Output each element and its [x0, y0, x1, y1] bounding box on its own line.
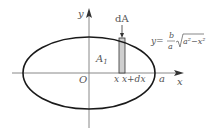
strip-pointer-arrow-icon: [120, 33, 124, 38]
equation-frac-den: a: [168, 42, 173, 51]
equation-frac-num: b: [169, 31, 174, 40]
equation-lhs: y=: [150, 36, 164, 46]
area-label: A1: [95, 53, 108, 66]
curve-equation: y= b a a²−x²: [150, 31, 205, 51]
origin-label: O: [79, 74, 87, 85]
x-right-label: x+dx: [122, 74, 145, 84]
x-left-label: x: [114, 74, 119, 84]
equation-radicand: a²−x²: [183, 37, 205, 46]
strip-label: dA: [115, 13, 129, 24]
a-label: a: [159, 73, 165, 84]
ellipse-area-diagram: y x O a A1 dA x x+dx y= b a a²−x²: [0, 0, 221, 134]
y-axis-label: y: [77, 8, 84, 19]
area-label-subscript: 1: [103, 58, 107, 66]
area-label-main: A: [95, 53, 103, 64]
x-axis-label: x: [177, 76, 183, 87]
